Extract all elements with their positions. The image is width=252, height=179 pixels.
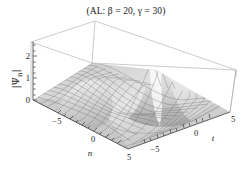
z-axis-ticks <box>33 45 37 100</box>
n-tick-neg5: −5 <box>52 116 61 126</box>
z-tick-2: 2 <box>26 51 30 61</box>
n-tick-0: 0 <box>91 134 95 144</box>
z-tick-0: 0 <box>26 95 30 105</box>
t-axis-label: t <box>212 133 215 143</box>
figure-surface-plot: (AL: β = 20, γ = 30) |Ψn| <box>0 0 252 179</box>
surface-mesh <box>33 40 236 149</box>
n-axis-label: n <box>88 148 93 158</box>
t-tick-5: 5 <box>231 114 235 124</box>
t-tick-neg5: −5 <box>150 144 159 154</box>
plot-canvas: 0 1 2 −5 0 5 n <box>0 0 252 179</box>
z-tick-1: 1 <box>26 73 30 83</box>
t-tick-0: 0 <box>194 128 198 138</box>
n-tick-5: 5 <box>127 152 131 162</box>
